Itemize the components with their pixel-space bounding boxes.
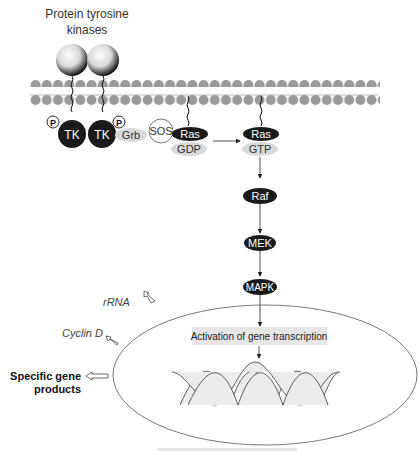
title-line1: Protein tyrosine bbox=[45, 7, 129, 21]
sos: SOS bbox=[149, 119, 173, 143]
specific-gene-line1: Specific gene bbox=[10, 370, 81, 382]
svg-text:MAPK: MAPK bbox=[246, 282, 275, 293]
mek: MEK bbox=[244, 235, 276, 251]
svg-text:Ras: Ras bbox=[180, 128, 200, 140]
rrna-arrow-icon bbox=[144, 291, 155, 303]
tk-1: TK bbox=[58, 120, 86, 148]
mapk: MAPK bbox=[243, 279, 277, 295]
ras-gdp: GDP Ras bbox=[171, 127, 208, 156]
svg-text:MEK: MEK bbox=[248, 237, 273, 249]
svg-text:GTP: GTP bbox=[249, 143, 272, 155]
svg-text:Grb: Grb bbox=[122, 129, 140, 141]
ligand-binding-domain-1 bbox=[56, 44, 88, 76]
transcription-label: Activation of gene transcription bbox=[191, 331, 328, 342]
svg-text:Ras: Ras bbox=[251, 128, 271, 140]
svg-text:TK: TK bbox=[94, 128, 109, 142]
cyclin-d-label: Cyclin D bbox=[62, 327, 103, 339]
cyclin-arrow-icon bbox=[106, 336, 118, 345]
phospho-2: P bbox=[113, 116, 125, 128]
tk-2: TK bbox=[88, 120, 116, 148]
svg-text:TK: TK bbox=[64, 128, 79, 142]
specific-gene-arrow-icon bbox=[86, 372, 108, 380]
grb: Grb bbox=[115, 128, 147, 142]
ligand-binding-domain-2 bbox=[87, 44, 119, 76]
svg-text:P: P bbox=[50, 118, 56, 128]
svg-text:P: P bbox=[116, 118, 122, 128]
rrna-label: rRNA bbox=[103, 296, 130, 308]
dna-helix-icon bbox=[172, 362, 340, 405]
ras-gtp: GTP Ras bbox=[242, 127, 279, 156]
svg-text:SOS: SOS bbox=[149, 125, 172, 137]
signaling-diagram: Protein tyrosine kinases TK TK P bbox=[0, 0, 419, 451]
title-line2: kinases bbox=[67, 23, 108, 37]
phospho-1: P bbox=[47, 116, 59, 128]
specific-gene-line2: products bbox=[34, 383, 81, 395]
cell-membrane bbox=[30, 77, 380, 105]
svg-text:GDP: GDP bbox=[177, 143, 201, 155]
raf: Raf bbox=[243, 188, 277, 204]
svg-text:Raf: Raf bbox=[251, 190, 269, 202]
